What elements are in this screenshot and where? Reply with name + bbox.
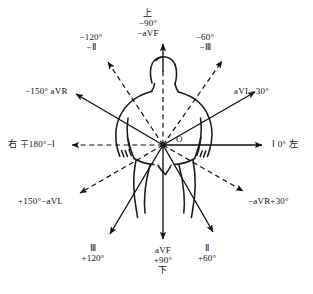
axis-label-lead-II-plus60: Ⅱ +60° [177, 243, 237, 263]
axis-line-lead-aVR-minus150 [76, 94, 163, 145]
axis-label-lead-minus-III-minus60: −60° −Ⅲ [175, 32, 235, 52]
origin-point [160, 142, 165, 147]
axis-line-lead-III-plus120 [110, 145, 163, 234]
axis-label-lead-aVL-minus30: aVL−30° [234, 86, 269, 96]
axis-label-lead-minus-aVR-plus30: −aVR+30° [248, 196, 289, 206]
axis-label-lead-minus-II-minus120: −120° −Ⅱ [61, 32, 121, 52]
origin-label: O [176, 134, 183, 144]
axis-label-lead-III-plus120: Ⅲ +120° [63, 243, 123, 263]
axis-line-lead-minus-aVR-plus30 [163, 145, 243, 191]
axis-label-lead-minus-aVF-minus90: 上 −90° −aVF [118, 8, 178, 38]
axis-line-lead-II-plus60 [163, 145, 213, 232]
axis-line-lead-minus-III-minus60 [163, 61, 222, 145]
axis-label-lead-I-0: Ⅰ 0° 左 [272, 139, 298, 149]
human-torso-outline [116, 57, 212, 218]
hexaxial-diagram: 上 −90° −aVF −120° −Ⅱ −60° −Ⅲ −150° aVR a… [0, 0, 313, 294]
axis-label-lead-minus-I-180: 右 ∓180°−Ⅰ [8, 139, 55, 149]
axis-label-lead-minus-aVL-plus150: +150°−aVL [18, 196, 63, 206]
axis-label-lead-aVR-minus150: −150° aVR [25, 86, 68, 96]
